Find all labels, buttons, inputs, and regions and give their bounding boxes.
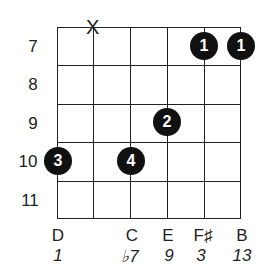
- fret-number-11: 11: [15, 191, 45, 211]
- fret-line: [57, 65, 241, 66]
- note-name: B: [227, 226, 257, 246]
- string-line: [130, 27, 131, 219]
- note-name: F♯: [188, 226, 218, 246]
- finger-dot: 1: [227, 32, 255, 60]
- fret-line: [57, 142, 241, 143]
- string-line: [57, 27, 58, 219]
- interval-label: 3: [184, 246, 218, 266]
- note-name: C: [117, 226, 147, 246]
- interval-label: 1: [41, 246, 75, 266]
- finger-dot: 2: [153, 108, 181, 136]
- finger-dot: 3: [44, 147, 72, 175]
- fret-line: [57, 218, 241, 219]
- finger-dot: 4: [117, 147, 145, 175]
- interval-label: 13: [225, 246, 259, 266]
- fret-line: [57, 181, 241, 182]
- finger-dot: 1: [190, 32, 218, 60]
- note-name: D: [43, 226, 73, 246]
- interval-label: ♭7: [113, 246, 147, 267]
- muted-string-x-icon: X: [86, 17, 99, 37]
- fret-number-8: 8: [18, 75, 48, 95]
- string-line: [93, 27, 94, 219]
- fret-number-10: 10: [13, 152, 43, 172]
- fret-line: [57, 104, 241, 105]
- fret-number-9: 9: [18, 114, 48, 134]
- note-name: E: [153, 226, 183, 246]
- fret-number-7: 7: [18, 37, 48, 57]
- interval-label: 9: [152, 246, 186, 266]
- fret-line: [57, 27, 241, 28]
